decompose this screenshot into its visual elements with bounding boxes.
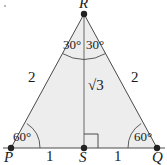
vertex-label-q: Q (152, 150, 163, 165)
length-label-rs: √3 (88, 78, 104, 93)
vertex-dot-r (81, 11, 87, 17)
angle-label-apex-left: 30° (63, 38, 81, 51)
length-label-sq: 1 (114, 149, 122, 164)
vertex-label-p: P (4, 150, 13, 165)
length-label-pr: 2 (28, 70, 36, 85)
vertex-label-s: S (79, 150, 87, 165)
angle-label-p: 60° (13, 130, 31, 143)
vertex-label-r: R (79, 0, 88, 11)
geometry-figure: R P Q S 30° 30° 60° 60° 2 2 √3 1 1 (0, 0, 167, 165)
angle-label-q: 60° (134, 130, 152, 143)
length-label-qr: 2 (131, 70, 139, 85)
length-label-ps: 1 (46, 149, 54, 164)
angle-label-apex-right: 30° (86, 38, 104, 51)
